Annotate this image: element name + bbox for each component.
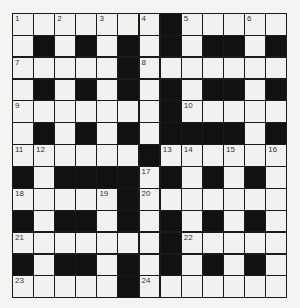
grid-cell[interactable] bbox=[182, 167, 202, 188]
grid-cell[interactable]: 3 bbox=[97, 14, 117, 35]
grid-cell[interactable] bbox=[161, 189, 181, 210]
grid-cell[interactable] bbox=[13, 80, 33, 101]
grid-cell[interactable] bbox=[55, 145, 75, 166]
grid-cell[interactable] bbox=[182, 36, 202, 57]
grid-cell[interactable] bbox=[76, 145, 96, 166]
grid-cell[interactable]: 15 bbox=[224, 145, 244, 166]
grid-cell[interactable] bbox=[224, 101, 244, 122]
grid-cell[interactable] bbox=[224, 211, 244, 232]
grid-cell[interactable] bbox=[118, 101, 138, 122]
grid-cell[interactable] bbox=[76, 189, 96, 210]
grid-cell[interactable]: 1 bbox=[13, 14, 33, 35]
grid-cell[interactable] bbox=[34, 233, 54, 254]
grid-cell[interactable] bbox=[34, 101, 54, 122]
grid-cell[interactable] bbox=[203, 276, 223, 297]
grid-cell[interactable]: 10 bbox=[182, 101, 202, 122]
grid-cell[interactable] bbox=[13, 123, 33, 144]
grid-cell[interactable] bbox=[245, 58, 265, 79]
grid-cell[interactable] bbox=[76, 58, 96, 79]
grid-cell[interactable] bbox=[224, 189, 244, 210]
grid-cell[interactable] bbox=[34, 58, 54, 79]
grid-cell[interactable]: 17 bbox=[140, 167, 160, 188]
grid-cell[interactable] bbox=[140, 233, 160, 254]
grid-cell[interactable] bbox=[76, 14, 96, 35]
grid-cell[interactable] bbox=[140, 211, 160, 232]
grid-cell[interactable] bbox=[266, 276, 286, 297]
grid-cell[interactable] bbox=[97, 101, 117, 122]
grid-cell[interactable] bbox=[55, 233, 75, 254]
grid-cell[interactable] bbox=[76, 276, 96, 297]
grid-cell[interactable] bbox=[97, 255, 117, 276]
grid-cell[interactable]: 16 bbox=[266, 145, 286, 166]
grid-cell[interactable] bbox=[266, 233, 286, 254]
grid-cell[interactable] bbox=[266, 58, 286, 79]
grid-cell[interactable] bbox=[266, 14, 286, 35]
grid-cell[interactable]: 4 bbox=[140, 14, 160, 35]
grid-cell[interactable] bbox=[140, 101, 160, 122]
grid-cell[interactable]: 23 bbox=[13, 276, 33, 297]
grid-cell[interactable] bbox=[224, 255, 244, 276]
grid-cell[interactable] bbox=[97, 276, 117, 297]
grid-cell[interactable] bbox=[97, 58, 117, 79]
grid-cell[interactable] bbox=[245, 101, 265, 122]
grid-cell[interactable]: 6 bbox=[245, 14, 265, 35]
grid-cell[interactable]: 24 bbox=[140, 276, 160, 297]
grid-cell[interactable] bbox=[245, 80, 265, 101]
grid-cell[interactable] bbox=[34, 255, 54, 276]
grid-cell[interactable] bbox=[203, 189, 223, 210]
grid-cell[interactable] bbox=[140, 255, 160, 276]
grid-cell[interactable] bbox=[266, 101, 286, 122]
grid-cell[interactable] bbox=[76, 233, 96, 254]
grid-cell[interactable] bbox=[182, 58, 202, 79]
grid-cell[interactable]: 13 bbox=[161, 145, 181, 166]
grid-cell[interactable] bbox=[140, 80, 160, 101]
grid-cell[interactable] bbox=[203, 101, 223, 122]
grid-cell[interactable] bbox=[245, 36, 265, 57]
grid-cell[interactable] bbox=[182, 80, 202, 101]
grid-cell[interactable] bbox=[55, 58, 75, 79]
grid-cell[interactable]: 22 bbox=[182, 233, 202, 254]
grid-cell[interactable] bbox=[224, 276, 244, 297]
grid-cell[interactable] bbox=[55, 276, 75, 297]
grid-cell[interactable] bbox=[55, 101, 75, 122]
grid-cell[interactable]: 19 bbox=[97, 189, 117, 210]
grid-cell[interactable]: 14 bbox=[182, 145, 202, 166]
grid-cell[interactable]: 7 bbox=[13, 58, 33, 79]
grid-cell[interactable] bbox=[266, 255, 286, 276]
grid-cell[interactable] bbox=[224, 233, 244, 254]
grid-cell[interactable] bbox=[245, 189, 265, 210]
grid-cell[interactable] bbox=[182, 255, 202, 276]
grid-cell[interactable] bbox=[224, 167, 244, 188]
grid-cell[interactable] bbox=[140, 36, 160, 57]
grid-cell[interactable] bbox=[97, 80, 117, 101]
grid-cell[interactable]: 12 bbox=[34, 145, 54, 166]
grid-cell[interactable] bbox=[118, 14, 138, 35]
grid-cell[interactable] bbox=[182, 189, 202, 210]
grid-cell[interactable] bbox=[266, 211, 286, 232]
grid-cell[interactable] bbox=[161, 276, 181, 297]
grid-cell[interactable] bbox=[97, 36, 117, 57]
grid-cell[interactable] bbox=[266, 167, 286, 188]
grid-cell[interactable]: 21 bbox=[13, 233, 33, 254]
grid-cell[interactable] bbox=[245, 233, 265, 254]
grid-cell[interactable] bbox=[97, 123, 117, 144]
grid-cell[interactable] bbox=[182, 211, 202, 232]
grid-cell[interactable] bbox=[182, 276, 202, 297]
grid-cell[interactable] bbox=[34, 189, 54, 210]
grid-cell[interactable] bbox=[118, 145, 138, 166]
grid-cell[interactable] bbox=[55, 36, 75, 57]
grid-cell[interactable] bbox=[161, 58, 181, 79]
grid-cell[interactable] bbox=[34, 14, 54, 35]
grid-cell[interactable]: 11 bbox=[13, 145, 33, 166]
grid-cell[interactable] bbox=[245, 123, 265, 144]
grid-cell[interactable] bbox=[55, 80, 75, 101]
grid-cell[interactable]: 9 bbox=[13, 101, 33, 122]
grid-cell[interactable] bbox=[97, 145, 117, 166]
grid-cell[interactable]: 8 bbox=[140, 58, 160, 79]
grid-cell[interactable] bbox=[97, 233, 117, 254]
grid-cell[interactable]: 18 bbox=[13, 189, 33, 210]
grid-cell[interactable] bbox=[34, 167, 54, 188]
grid-cell[interactable] bbox=[203, 14, 223, 35]
grid-cell[interactable] bbox=[55, 189, 75, 210]
grid-cell[interactable] bbox=[140, 123, 160, 144]
